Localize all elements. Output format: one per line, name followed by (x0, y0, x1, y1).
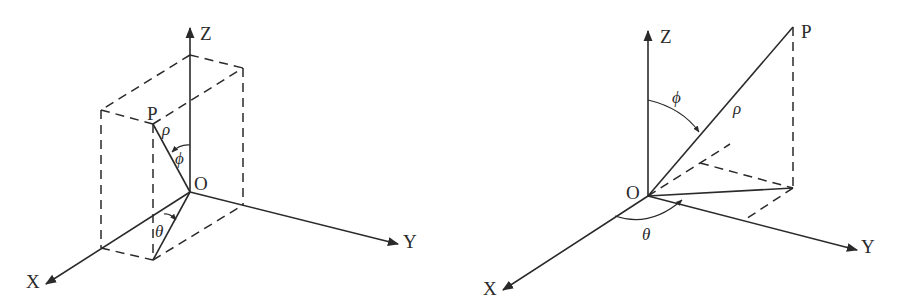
rho-segment (153, 124, 190, 192)
rho-segment (648, 27, 793, 196)
y-axis-label: Y (861, 236, 875, 257)
origin-label: O (194, 173, 208, 194)
theta-label: θ (642, 225, 650, 244)
origin-label: O (626, 182, 640, 203)
theta-arc (164, 214, 176, 220)
z-axis-label: Z (660, 26, 672, 47)
rho-label: ρ (732, 99, 741, 118)
diagram-canvas: Z Y X O P ρ ϕ θ Z Y X O P (0, 0, 901, 305)
right-figure: Z Y X O P ρ ϕ θ (483, 21, 875, 299)
x-axis (503, 196, 648, 290)
z-axis-label: Z (200, 23, 212, 44)
left-figure: Z Y X O P ρ ϕ θ (26, 23, 417, 292)
x-axis-label: X (483, 278, 497, 299)
rho-label: ρ (161, 120, 170, 139)
point-label: P (147, 103, 158, 124)
y-axis (648, 196, 857, 250)
phi-label: ϕ (672, 88, 681, 107)
x-axis-label: X (26, 271, 40, 292)
theta-label: θ (155, 222, 163, 241)
projection-segment (648, 188, 793, 196)
x-axis (46, 192, 190, 284)
y-axis-label: Y (403, 231, 417, 252)
phi-label: ϕ (175, 149, 184, 168)
point-label: P (801, 21, 812, 42)
